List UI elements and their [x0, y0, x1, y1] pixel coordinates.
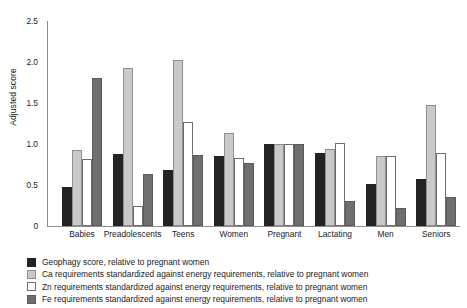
bar-lactating-ca — [325, 149, 335, 226]
bar-teens-zn — [183, 122, 193, 226]
bar-seniors-ca — [426, 105, 436, 226]
bar-lactating-fe — [345, 201, 355, 226]
legend-item: Geophagy score, relative to pregnant wom… — [27, 256, 457, 268]
y-axis-tick: 0 — [8, 221, 38, 231]
bar-group — [214, 21, 254, 226]
bars-layer — [48, 21, 460, 226]
bar-teens-fe — [193, 155, 203, 226]
legend-label: Geophagy score, relative to pregnant wom… — [42, 258, 209, 266]
y-axis-tick: 2.5 — [8, 16, 38, 26]
bar-seniors-geophagy — [416, 179, 426, 226]
legend-item: Fe requirements standardized against ene… — [27, 293, 457, 305]
x-axis-label: Preadolescents — [104, 229, 162, 239]
bar-seniors-fe — [446, 197, 456, 226]
legend-label: Ca requirements standardized against ene… — [42, 270, 368, 278]
bar-lactating-zn — [335, 143, 345, 226]
bar-group — [416, 21, 456, 226]
bar-seniors-zn — [436, 153, 446, 226]
bar-group — [163, 21, 203, 226]
y-axis-tick-labels: 00.51.01.52.02.5 — [8, 0, 38, 250]
bar-men-zn — [386, 156, 396, 226]
bar-babies-zn — [82, 159, 92, 226]
bar-group — [113, 21, 153, 226]
bar-men-fe — [396, 208, 406, 226]
bar-preadolescents-fe — [143, 174, 153, 226]
bar-women-fe — [244, 163, 254, 226]
y-axis-tick: 2.0 — [8, 57, 38, 67]
bar-preadolescents-zn — [133, 206, 143, 227]
bar-lactating-geophagy — [315, 153, 325, 226]
x-axis-label: Seniors — [422, 229, 450, 239]
grouped-bar-chart: Adjusted score 00.51.01.52.02.5 BabiesPr… — [0, 0, 467, 308]
x-axis-label: Men — [377, 229, 393, 239]
bar-pregnant-ca — [274, 144, 284, 226]
bar-group — [264, 21, 304, 226]
x-axis-label: Lactating — [318, 229, 352, 239]
chart-legend: Geophagy score, relative to pregnant wom… — [27, 256, 457, 306]
bar-pregnant-fe — [294, 144, 304, 226]
bar-women-zn — [234, 158, 244, 226]
legend-swatch-fe — [27, 295, 36, 304]
bar-teens-geophagy — [163, 170, 173, 226]
bar-men-ca — [376, 156, 386, 226]
legend-item: Ca requirements standardized against ene… — [27, 268, 457, 280]
legend-item: Zn requirements standardized against ene… — [27, 281, 457, 293]
bar-women-geophagy — [214, 156, 224, 226]
bar-teens-ca — [173, 60, 183, 226]
bar-group — [315, 21, 355, 226]
bar-preadolescents-ca — [123, 68, 133, 226]
legend-label: Fe requirements standardized against ene… — [42, 295, 367, 303]
y-axis-tick: 1.0 — [8, 139, 38, 149]
bar-pregnant-geophagy — [264, 144, 274, 226]
bar-pregnant-zn — [284, 144, 294, 226]
legend-swatch-ca — [27, 270, 36, 279]
x-axis-label: Pregnant — [267, 229, 301, 239]
legend-swatch-geophagy — [27, 258, 36, 267]
plot-area: Adjusted score 00.51.01.52.02.5 BabiesPr… — [0, 0, 467, 250]
legend-swatch-zn — [27, 282, 36, 291]
x-axis-label: Babies — [69, 229, 95, 239]
bar-group — [62, 21, 102, 226]
x-axis-label: Teens — [172, 229, 194, 239]
y-axis-tick: 1.5 — [8, 98, 38, 108]
bar-men-geophagy — [366, 184, 376, 226]
bar-group — [366, 21, 406, 226]
y-axis-tick: 0.5 — [8, 180, 38, 190]
bar-women-ca — [224, 133, 234, 226]
legend-label: Zn requirements standardized against ene… — [42, 283, 367, 291]
bar-babies-ca — [72, 150, 82, 226]
bar-babies-fe — [92, 78, 102, 226]
x-axis-label: Women — [219, 229, 248, 239]
bar-babies-geophagy — [62, 187, 72, 226]
bar-preadolescents-geophagy — [113, 154, 123, 226]
